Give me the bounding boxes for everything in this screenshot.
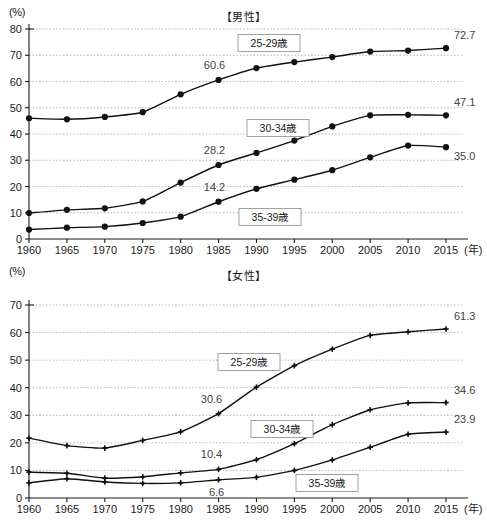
data-point-marker — [216, 467, 222, 473]
marker-core — [407, 401, 410, 404]
series-line — [29, 329, 446, 448]
marker-core — [217, 412, 220, 415]
series-annotation-value: 30.6 — [201, 393, 222, 405]
legend-label: 25-29歳 — [231, 356, 269, 368]
data-point-marker — [329, 123, 335, 129]
data-point-marker — [26, 115, 32, 121]
data-point-marker — [140, 438, 146, 444]
data-point-marker — [253, 150, 259, 156]
x-tick-label: 2015 — [434, 244, 458, 256]
data-point-marker — [64, 116, 70, 122]
y-tick-label: 80 — [10, 23, 22, 35]
legend-item-30-34歳[interactable]: 30-34歳 — [251, 421, 313, 438]
data-point-marker — [64, 470, 70, 476]
x-tick-label: 1980 — [168, 503, 192, 515]
x-tick-label: 2010 — [396, 244, 420, 256]
series-35-39歳 — [26, 429, 449, 486]
marker-core — [445, 431, 448, 434]
marker-core — [103, 477, 106, 480]
x-tick-label: 2005 — [358, 244, 382, 256]
marker-core — [293, 442, 296, 445]
marker-core — [65, 472, 68, 475]
data-point-marker — [443, 326, 449, 332]
marker-core — [103, 481, 106, 484]
data-point-marker — [329, 346, 335, 352]
data-point-marker — [292, 441, 298, 447]
data-point-marker — [178, 429, 184, 435]
legend-item-35-39歳[interactable]: 35-39歳 — [296, 475, 358, 492]
x-tick-label: 2000 — [320, 244, 344, 256]
x-tick-label: 1975 — [130, 503, 154, 515]
x-tick-label: 2005 — [358, 503, 382, 515]
data-point-marker — [178, 214, 184, 220]
marker-core — [293, 469, 296, 472]
y-tick-label: 60 — [10, 327, 22, 339]
series-line — [29, 115, 446, 213]
marker-core — [369, 446, 372, 449]
marker-core — [179, 471, 182, 474]
data-point-marker — [443, 112, 449, 118]
x-tick-label: 1995 — [282, 244, 306, 256]
data-point-marker — [405, 47, 411, 53]
chart-panel-female: (%) 【女性】 0102030405060701960196519701975… — [0, 261, 487, 522]
data-point-marker — [329, 422, 335, 428]
data-point-marker — [102, 205, 108, 211]
series-annotation-value: 14.2 — [204, 181, 225, 193]
data-point-marker — [443, 45, 449, 51]
marker-core — [331, 423, 334, 426]
marker-core — [255, 476, 258, 479]
x-tick-label: 1970 — [93, 244, 117, 256]
series-end-value-label: 47.1 — [454, 96, 475, 108]
x-tick-label: 2000 — [320, 503, 344, 515]
legend-item-25-29歳[interactable]: 25-29歳 — [238, 35, 300, 52]
data-point-marker — [215, 77, 221, 83]
legend-label: 30-34歳 — [264, 423, 302, 435]
x-tick-label: 1960 — [17, 244, 41, 256]
marker-core — [65, 444, 68, 447]
series-end-value-label: 23.9 — [454, 413, 475, 425]
x-tick-label: 2015 — [434, 503, 458, 515]
x-tick-label: 1975 — [130, 244, 154, 256]
data-point-marker — [64, 225, 70, 231]
data-point-marker — [216, 477, 222, 483]
data-point-marker — [140, 109, 146, 115]
series-annotation-value: 6.6 — [209, 486, 224, 498]
legend-item-30-34歳[interactable]: 30-34歳 — [247, 120, 309, 137]
x-tick-label: 1960 — [17, 503, 41, 515]
data-point-marker — [443, 429, 449, 435]
data-point-marker — [140, 474, 146, 480]
data-point-marker — [405, 400, 411, 406]
marker-core — [28, 437, 31, 440]
data-point-marker — [254, 457, 260, 463]
y-tick-label: 10 — [10, 207, 22, 219]
y-tick-label: 50 — [10, 102, 22, 114]
marker-core — [445, 401, 448, 404]
data-point-marker — [291, 137, 297, 143]
data-point-marker — [26, 226, 32, 232]
marker-core — [141, 475, 144, 478]
y-tick-label: 50 — [10, 354, 22, 366]
y-tick-label: 30 — [10, 154, 22, 166]
legend-label: 35-39歳 — [309, 477, 347, 489]
x-tick-label: 2010 — [396, 503, 420, 515]
data-point-marker — [329, 167, 335, 173]
series-line — [29, 145, 446, 229]
x-tick-label: 1995 — [282, 503, 306, 515]
series-end-value-label: 61.3 — [454, 310, 475, 322]
data-point-marker — [64, 476, 70, 482]
data-point-marker — [443, 400, 449, 406]
marker-core — [255, 386, 258, 389]
y-tick-label: 20 — [10, 437, 22, 449]
data-point-marker — [405, 112, 411, 118]
data-point-marker — [367, 154, 373, 160]
marker-core — [369, 408, 372, 411]
data-point-marker — [102, 114, 108, 120]
data-point-marker — [64, 207, 70, 213]
data-point-marker — [443, 144, 449, 150]
x-tick-label: 1965 — [55, 503, 79, 515]
legend-item-35-39歳[interactable]: 35-39歳 — [239, 209, 301, 226]
series-end-value-label: 34.6 — [454, 384, 475, 396]
legend-item-25-29歳[interactable]: 25-29歳 — [218, 354, 280, 371]
legend-label: 35-39歳 — [252, 211, 290, 223]
data-point-marker — [329, 457, 335, 463]
